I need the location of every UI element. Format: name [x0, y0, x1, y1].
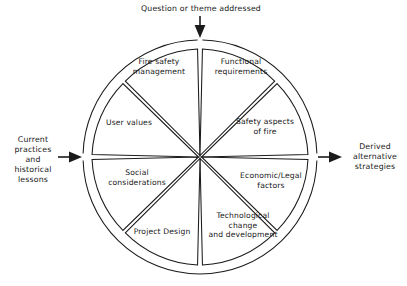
input-arrow-left: [58, 152, 82, 163]
diagram-container: Question or theme addressed Current prac…: [0, 0, 407, 286]
wedge-group: [92, 49, 308, 265]
input-arrow-top-head: [195, 25, 206, 38]
output-arrow-right: [318, 152, 342, 163]
input-arrow-left-head: [69, 152, 82, 163]
outer-ring: [83, 40, 317, 274]
diagram-canvas: [0, 0, 407, 286]
output-arrow-right-head: [329, 152, 342, 163]
input-arrow-top: [195, 16, 206, 38]
